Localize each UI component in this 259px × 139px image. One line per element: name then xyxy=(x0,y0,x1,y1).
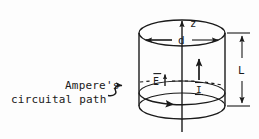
arrow-right-on-path-icon xyxy=(139,93,170,104)
length-dimension: L xyxy=(227,33,250,106)
figure-container: z d L E xyxy=(0,0,259,139)
diameter-dimension: d xyxy=(146,34,218,47)
callout-label-line2: circuital path xyxy=(11,93,107,107)
callout-label-line1: Ampere's xyxy=(65,79,120,93)
current-group: I xyxy=(195,59,203,95)
dash-segment-left xyxy=(140,81,152,82)
efield-label: E xyxy=(153,76,159,87)
axis-z-label: z xyxy=(190,17,196,29)
diameter-label: d xyxy=(178,34,185,47)
cylinder-ampere-diagram: z d L E xyxy=(0,0,259,139)
efield-group: E xyxy=(153,74,165,87)
current-label: I xyxy=(196,84,202,95)
length-label: L xyxy=(238,64,245,77)
